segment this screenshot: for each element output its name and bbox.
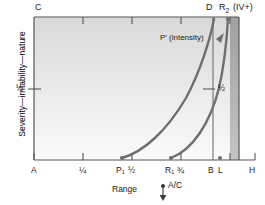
ac-marker xyxy=(160,184,167,201)
x-tick-label-5: R₁ xyxy=(165,166,174,175)
shaded-band-l-to-h xyxy=(230,17,239,160)
x-tick-label-0: A xyxy=(31,166,37,175)
x-tick-label-3: P₁ xyxy=(116,166,125,175)
ac-marker-label: A/C xyxy=(168,181,182,190)
corner-label-d: D xyxy=(206,3,213,12)
corner-label-r2: R2 xyxy=(219,3,229,14)
top-point-marker-r2 xyxy=(226,17,230,21)
x-tick-label-4: ¾ xyxy=(177,166,184,175)
x-tick-label-1: ¼ xyxy=(79,166,86,175)
chart-figure: C D R2 (IV+) ½ ½ P′ (intensity) A ¼ ½ P₁… xyxy=(0,0,265,205)
x-tick-label-2: ½ xyxy=(128,166,135,175)
x-tick-label-8: H xyxy=(249,166,255,175)
y-axis-title: Severity—irritability—nature xyxy=(17,31,27,136)
y-axis-title-container: Severity—irritability—nature xyxy=(11,9,29,159)
corner-label-class-iv: (IV+) xyxy=(233,3,253,12)
curve-annotation-p-intensity: P′ (intensity) xyxy=(160,34,204,42)
corner-label-r2-sub: 2 xyxy=(226,7,230,14)
y-tick-label-half-right: ½ xyxy=(218,84,225,93)
x-axis-title: Range xyxy=(112,185,137,194)
corner-label-c: C xyxy=(35,3,42,12)
x-tick-label-7: L xyxy=(218,166,223,175)
x-tick-label-6: B xyxy=(208,166,214,175)
